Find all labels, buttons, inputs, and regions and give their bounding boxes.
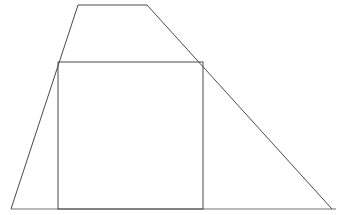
trapezoid-outline <box>11 5 332 209</box>
geometry-figure-svg <box>0 0 342 215</box>
inner-rectangle <box>58 62 203 209</box>
figure-canvas <box>0 0 342 215</box>
